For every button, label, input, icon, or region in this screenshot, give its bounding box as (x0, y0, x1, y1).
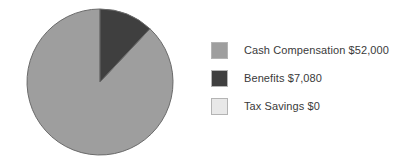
legend-item-tax-savings[interactable]: Tax Savings $0 (211, 92, 395, 120)
swatch-benefits-icon (211, 70, 228, 87)
pie-chart-svg (0, 0, 200, 165)
pie-chart-figure: Cash Compensation $52,000 Benefits $7,08… (0, 0, 395, 165)
swatch-tax-savings-icon (211, 98, 228, 115)
swatch-cash-compensation-icon (211, 42, 228, 59)
legend-label-benefits: Benefits $7,080 (244, 72, 322, 85)
legend-label-tax-savings: Tax Savings $0 (244, 100, 320, 113)
chart-legend: Cash Compensation $52,000 Benefits $7,08… (211, 36, 395, 120)
legend-item-cash-compensation[interactable]: Cash Compensation $52,000 (211, 36, 395, 64)
pie-chart-plot-area (0, 0, 200, 165)
legend-item-benefits[interactable]: Benefits $7,080 (211, 64, 395, 92)
legend-label-cash-compensation: Cash Compensation $52,000 (244, 44, 389, 57)
